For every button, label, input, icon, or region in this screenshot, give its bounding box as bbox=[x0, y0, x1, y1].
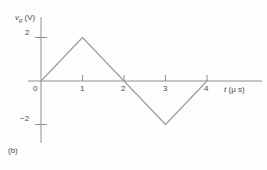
x-tick-label-0: 0 bbox=[33, 85, 37, 93]
y-tick-label-2: 2 bbox=[25, 29, 29, 37]
x-axis-symbol: t bbox=[224, 85, 226, 94]
x-tick-label-4: 4 bbox=[204, 85, 208, 93]
x-tick-label-2: 2 bbox=[121, 85, 125, 93]
y-tick-label-minus-2: −2 bbox=[20, 115, 29, 123]
figure-caption: (b) bbox=[8, 146, 18, 155]
figure-panel: vg (V) t (μ s) 2 −2 0 1 2 3 4 (b) bbox=[0, 0, 267, 170]
x-axis-title: t (μ s) bbox=[224, 86, 245, 94]
x-tick-label-3: 3 bbox=[163, 85, 167, 93]
y-axis-subscript: g bbox=[19, 17, 22, 23]
y-axis-title: vg (V) bbox=[15, 14, 35, 23]
y-axis-unit: (V) bbox=[25, 13, 36, 22]
x-axis-unit: (μ s) bbox=[228, 85, 244, 94]
x-tick-label-1: 1 bbox=[80, 85, 84, 93]
